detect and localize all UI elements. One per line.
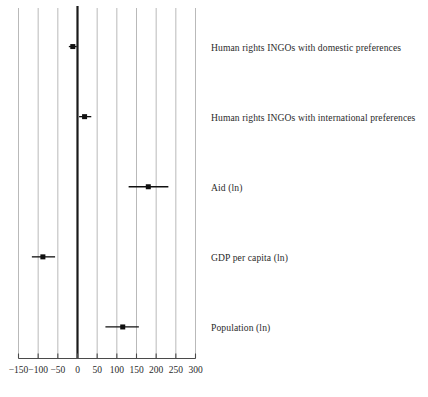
x-tick-label-150: 150 — [129, 365, 144, 375]
category-label-5: Population (ln) — [211, 321, 270, 332]
point-estimate-4 — [40, 254, 45, 259]
category-label-4: GDP per capita (ln) — [211, 251, 288, 262]
x-tick-label-300: 300 — [188, 365, 203, 375]
x-tick-label-200: 200 — [149, 365, 164, 375]
x-tick-label-neg100: −100 — [28, 365, 48, 375]
category-label-1: Human rights INGOs with domestic prefere… — [211, 41, 401, 52]
coefficient-plot-canvas: −150−100−50050100150200250300 — [0, 0, 428, 397]
point-estimate-2 — [82, 114, 87, 119]
x-tick-label-100: 100 — [110, 365, 125, 375]
x-tick-label-neg150: −150 — [9, 365, 29, 375]
point-estimate-1 — [70, 44, 75, 49]
coefficient-plot-figure: −150−100−50050100150200250300 Human righ… — [0, 0, 428, 397]
x-tick-label-50: 50 — [92, 365, 102, 375]
plot-background — [0, 0, 428, 397]
x-tick-label-0: 0 — [75, 365, 80, 375]
category-label-3: Aid (ln) — [211, 181, 242, 192]
category-label-2: Human rights INGOs with international pr… — [211, 111, 415, 122]
point-estimate-5 — [120, 324, 125, 329]
x-tick-label-neg50: −50 — [50, 365, 65, 375]
point-estimate-3 — [146, 184, 151, 189]
x-tick-label-250: 250 — [169, 365, 184, 375]
